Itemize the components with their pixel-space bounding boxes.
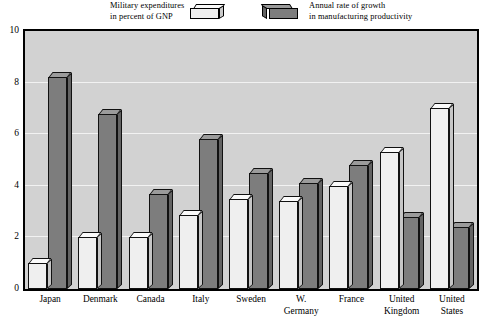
- bar-france-military: [329, 186, 348, 289]
- legend-swatch-light: [190, 4, 226, 19]
- bar-side-face: [198, 211, 203, 289]
- y-tick-label-6: 6: [3, 129, 19, 139]
- bar-japan-military: [28, 263, 47, 289]
- legend-label-growth-line-2: in manufacturing productivity: [309, 12, 412, 23]
- bar-side-face: [97, 233, 102, 289]
- y-tick-label-4: 4: [3, 181, 19, 191]
- bar-front-face: [179, 215, 198, 289]
- bar-side-face: [298, 197, 303, 289]
- legend-item-productivity-growth: Annual rate of growth in manufacturing p…: [267, 1, 412, 22]
- bar-side-face: [168, 189, 173, 289]
- bar-denmark-military: [78, 237, 97, 289]
- legend-swatch-light-side: [219, 5, 224, 19]
- bar-side-face: [218, 135, 223, 289]
- bar-front-face: [28, 263, 47, 289]
- bar-sweden-military: [229, 199, 248, 289]
- bar-side-face: [469, 223, 474, 289]
- grouped-bar-chart: Military expenditures in percent of GNP …: [0, 0, 495, 332]
- bar-united-states-military: [430, 108, 449, 289]
- x-axis-labels: JapanDenmarkCanadaItalySwedenW.GermanyFr…: [23, 294, 479, 332]
- x-axis-label-line: Germany: [265, 306, 337, 318]
- bar-italy-military: [179, 215, 198, 289]
- bar-front-face: [430, 108, 449, 289]
- y-tick-label-2: 2: [3, 232, 19, 242]
- y-tick-label-0: 0: [3, 284, 19, 294]
- x-axis-label-line: United: [416, 294, 488, 306]
- bar-side-face: [148, 233, 153, 289]
- bar-side-face: [368, 161, 373, 289]
- bar-front-face: [329, 186, 348, 289]
- bar-canada-military: [129, 237, 148, 289]
- y-tick-label-10: 10: [3, 26, 19, 36]
- bar-side-face: [318, 179, 323, 289]
- legend-label-military-expenditures: Military expenditures in percent of GNP: [110, 1, 184, 22]
- legend-swatch-light-front: [190, 8, 219, 19]
- bar-side-face: [47, 259, 52, 289]
- bar-side-face: [117, 109, 122, 289]
- bar-front-face: [129, 237, 148, 289]
- bar-side-face: [449, 104, 454, 289]
- plot-inner: [25, 31, 477, 289]
- x-axis-label-line: States: [416, 306, 488, 318]
- legend-swatch-dark-front: [269, 8, 298, 19]
- legend-label-military-line-1: Military expenditures: [110, 1, 184, 12]
- plot-area: [23, 29, 479, 291]
- legend-label-military-line-2: in percent of GNP: [110, 12, 184, 23]
- bar-side-face: [419, 212, 424, 289]
- y-tick-label-8: 8: [3, 78, 19, 88]
- bar-front-face: [380, 152, 399, 289]
- legend-label-productivity-growth: Annual rate of growth in manufacturing p…: [309, 1, 412, 22]
- bar-united-kingdom-military: [380, 152, 399, 289]
- bar-front-face: [78, 237, 97, 289]
- chart-legend: Military expenditures in percent of GNP …: [0, 0, 495, 28]
- bar-side-face: [248, 194, 253, 289]
- legend-swatch-dark: [267, 4, 303, 19]
- legend-item-military-expenditures: Military expenditures in percent of GNP: [110, 1, 226, 22]
- bar-side-face: [348, 181, 353, 289]
- legend-swatch-dark-side: [262, 5, 267, 19]
- bar-front-face: [229, 199, 248, 289]
- x-axis-label-united-states: UnitedStates: [416, 294, 488, 317]
- bars-layer: [25, 31, 481, 289]
- bar-side-face: [399, 148, 404, 289]
- bar-w-germany-military: [279, 201, 298, 289]
- bar-front-face: [279, 201, 298, 289]
- bar-side-face: [268, 168, 273, 289]
- bar-side-face: [67, 73, 72, 289]
- legend-label-growth-line-1: Annual rate of growth: [309, 1, 412, 12]
